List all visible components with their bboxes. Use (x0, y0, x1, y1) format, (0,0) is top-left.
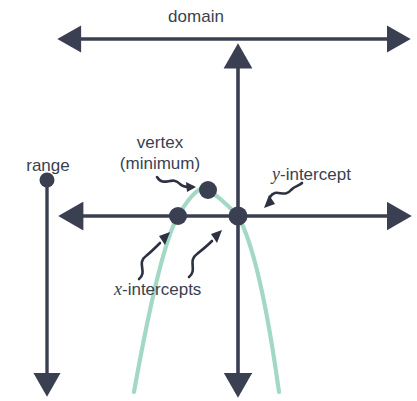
domain-label: domain (168, 6, 224, 27)
y-intercept-pointer-arrow (270, 183, 302, 197)
origin-intercept-point (229, 207, 248, 226)
x-intercepts-label: x-intercepts (114, 279, 201, 300)
y-intercept-label: y-intercept (272, 164, 351, 185)
vertex-pointer-arrowhead (186, 182, 196, 192)
y-intercept-variable: y (272, 164, 280, 184)
x-intercepts-suffix: -intercepts (122, 280, 201, 299)
vertex-label-line2: (minimum) (120, 153, 200, 174)
vertex-label-line1: vertex (137, 133, 183, 152)
y-intercept-pointer-arrowhead (264, 195, 275, 208)
x-intercept-right-pointer-arrow (189, 241, 212, 277)
diagram-canvas: domain range vertex (minimum) y-intercep… (0, 0, 417, 401)
range-label: range (26, 155, 69, 176)
x-intercepts-variable: x (114, 279, 122, 299)
vertex-point (199, 181, 217, 199)
vertex-label: vertex (minimum) (120, 132, 200, 174)
quadratic-graph-svg (0, 0, 417, 401)
x-intercept-left-point (169, 207, 187, 225)
y-intercept-suffix: -intercept (280, 165, 351, 184)
